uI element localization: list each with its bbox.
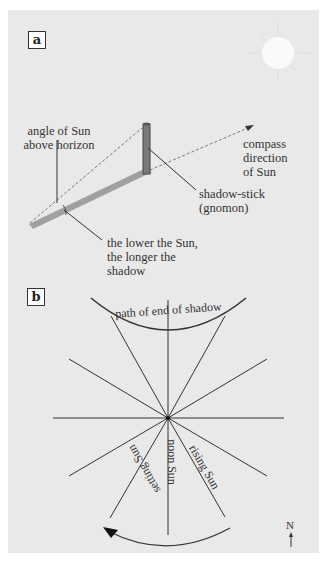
- arrowhead-icon: [103, 527, 118, 538]
- angle-annotation: angle of Sun above horizon: [22, 124, 96, 152]
- shadow-annotation: the lower the Sun, the longer the shadow: [107, 236, 198, 278]
- noon-sun-label: noon Sun: [165, 439, 179, 485]
- sun-icon: [248, 23, 312, 80]
- shadow-shape: [29, 168, 152, 229]
- compass-arrowhead: [245, 125, 254, 131]
- panel-a-label: a: [28, 31, 46, 49]
- panel-b-label: b: [27, 288, 45, 306]
- diagram-graphics: [0, 0, 324, 564]
- compass-direction-line: [150, 127, 250, 170]
- gnomon-annotation: shadow-stick (gnomon): [199, 187, 265, 215]
- compass-annotation: compass direction of Sun: [243, 137, 287, 179]
- sun-motion-arc: [108, 528, 230, 546]
- north-label: N: [286, 518, 294, 532]
- gnomon-point: [166, 416, 170, 420]
